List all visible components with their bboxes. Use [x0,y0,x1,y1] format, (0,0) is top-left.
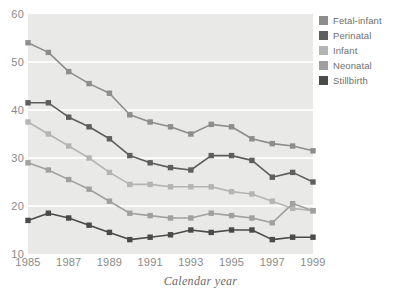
series-line [28,163,313,223]
data-point-marker [229,189,234,194]
data-point-marker [86,124,91,129]
data-point-marker [209,211,214,216]
data-point-marker [270,220,275,225]
data-point-marker [249,227,254,232]
data-point-marker [46,211,51,216]
data-point-marker [66,115,71,120]
data-point-marker [66,69,71,74]
data-point-marker [290,143,295,148]
data-point-marker [46,167,51,172]
data-point-marker [188,227,193,232]
data-point-marker [270,175,275,180]
data-point-marker [86,187,91,192]
series-line [28,43,313,151]
data-point-marker [127,182,132,187]
data-point-marker [46,100,51,105]
data-point-marker [290,206,295,211]
y-tick-label: 60 [11,8,24,20]
data-point-marker [25,40,30,45]
chart-figure: 102030405060 198519871989199119931995199… [0,0,401,298]
data-point-marker [188,215,193,220]
data-point-marker [229,124,234,129]
x-axis: 19851987198919911993199519971999 [28,256,313,272]
data-point-marker [229,227,234,232]
x-tick-label: 1991 [138,256,163,268]
series-fetal-infant [25,40,315,153]
data-point-marker [107,170,112,175]
data-point-marker [107,230,112,235]
chart-legend: Fetal-infantPerinatalInfantNeonatalStill… [319,13,401,88]
data-point-marker [107,136,112,141]
data-point-marker [270,199,275,204]
x-tick-label: 1987 [56,256,81,268]
data-point-marker [147,213,152,218]
data-point-marker [229,213,234,218]
data-point-marker [209,153,214,158]
data-point-marker [25,100,30,105]
data-point-marker [25,119,30,124]
data-point-marker [147,160,152,165]
data-point-marker [147,235,152,240]
x-axis-title: Calendar year [0,274,401,289]
legend-swatch-icon [319,16,328,25]
data-point-marker [209,122,214,127]
data-point-marker [168,232,173,237]
data-point-marker [209,230,214,235]
data-point-marker [25,160,30,165]
data-point-marker [229,153,234,158]
legend-item-label: Fetal-infant [333,15,382,26]
plot-area [28,14,313,254]
series-stillbirth [25,211,315,243]
x-tick-label: 1997 [260,256,285,268]
data-point-marker [188,167,193,172]
data-point-marker [188,131,193,136]
data-point-marker [209,184,214,189]
data-point-marker [127,112,132,117]
data-point-marker [168,215,173,220]
x-tick-label: 1993 [178,256,203,268]
data-point-marker [127,153,132,158]
data-point-marker [46,131,51,136]
data-point-marker [66,143,71,148]
y-tick-label: 20 [11,200,24,212]
legend-item: Infant [319,43,401,57]
data-point-marker [66,177,71,182]
data-point-marker [188,184,193,189]
legend-item: Stillbirth [319,73,401,87]
data-point-marker [290,170,295,175]
legend-item: Perinatal [319,28,401,42]
data-point-marker [25,218,30,223]
y-tick-label: 50 [11,56,24,68]
data-point-marker [66,215,71,220]
legend-swatch-icon [319,31,328,40]
data-point-marker [249,191,254,196]
legend-swatch-icon [319,46,328,55]
data-point-marker [310,179,315,184]
data-point-marker [249,215,254,220]
y-axis: 102030405060 [0,14,24,254]
data-point-marker [310,148,315,153]
data-point-marker [107,199,112,204]
legend-swatch-icon [319,76,328,85]
x-tick-label: 1985 [15,256,40,268]
legend-swatch-icon [319,61,328,70]
y-tick-label: 30 [11,152,24,164]
legend-item-label: Infant [333,45,357,56]
legend-item-label: Perinatal [333,30,371,41]
data-point-marker [168,165,173,170]
x-tick-label: 1999 [300,256,325,268]
x-tick-label: 1995 [219,256,244,268]
data-point-marker [147,182,152,187]
data-point-marker [270,237,275,242]
series-layer [28,14,313,254]
data-point-marker [249,158,254,163]
data-point-marker [86,223,91,228]
data-point-marker [86,155,91,160]
data-point-marker [127,237,132,242]
legend-item: Neonatal [319,58,401,72]
legend-item-label: Neonatal [333,60,372,71]
data-point-marker [310,235,315,240]
data-point-marker [310,208,315,213]
legend-item: Fetal-infant [319,13,401,27]
data-point-marker [249,136,254,141]
